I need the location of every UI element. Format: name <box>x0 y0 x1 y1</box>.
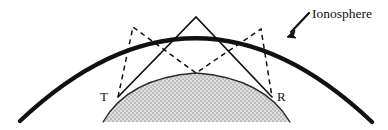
earth-dome-shape <box>103 73 290 122</box>
ionosphere-propagation-figure: Ionosphere T R <box>0 0 388 130</box>
receiver-label: R <box>277 89 286 104</box>
transmitter-label: T <box>100 89 108 104</box>
ionosphere-pointer-arrow <box>287 13 309 38</box>
ionosphere-label: Ionosphere <box>312 6 372 21</box>
figure-canvas: Ionosphere T R <box>0 0 388 130</box>
